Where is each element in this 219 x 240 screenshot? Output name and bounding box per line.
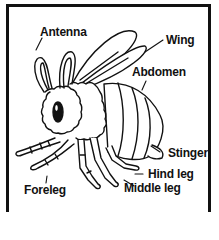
label-foreleg: Foreleg	[24, 184, 66, 196]
wing-shape	[72, 31, 146, 90]
label-antenna: Antenna	[40, 26, 87, 38]
eye-icon	[53, 102, 63, 122]
label-abdomen: Abdomen	[132, 66, 186, 78]
foreleg-shape	[16, 138, 74, 170]
label-middle-leg: Middle leg	[124, 182, 181, 194]
label-hind-leg: Hind leg	[148, 168, 194, 180]
antennae-shape	[35, 52, 75, 92]
head-shape	[42, 86, 82, 133]
label-stinger: Stinger	[168, 147, 208, 159]
label-wing: Wing	[166, 34, 194, 46]
